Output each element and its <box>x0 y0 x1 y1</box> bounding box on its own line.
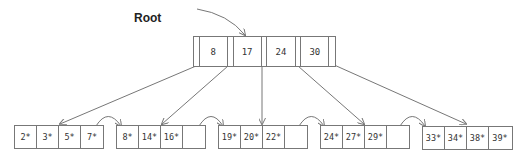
leaf-entry <box>387 126 409 148</box>
root-key: 24 <box>267 37 295 66</box>
leaf-entry: 29* <box>365 126 387 148</box>
leaf-entry <box>183 126 205 148</box>
root-key: 30 <box>301 37 329 66</box>
root-key: 8 <box>200 37 228 66</box>
child-pointer-0 <box>60 66 196 124</box>
leaf-entry: 19* <box>219 126 241 148</box>
leaf-node-3: 19* 20* 22* <box>218 125 308 149</box>
leaf-entry <box>285 126 307 148</box>
child-pointer-4 <box>332 64 466 124</box>
leaf-entry: 20* <box>241 126 263 148</box>
leaf-entry: 16* <box>161 126 183 148</box>
child-pointer-slot <box>329 37 335 66</box>
leaf-entry: 38* <box>467 127 489 149</box>
leaf-entry: 8* <box>117 126 139 148</box>
leaf-entry: 33* <box>423 127 445 149</box>
leaf-node-4: 24* 27* 29* <box>320 125 410 149</box>
root-node: 8 17 24 30 <box>193 36 336 67</box>
leaf-entry: 34* <box>445 127 467 149</box>
leaf-entry: 22* <box>263 126 285 148</box>
leaf-entry: 24* <box>321 126 343 148</box>
root-pointer-arrow <box>197 9 245 35</box>
leaf-entry: 5* <box>59 126 81 148</box>
leaf-entry: 7* <box>81 126 103 148</box>
child-pointer-3 <box>298 66 364 124</box>
child-pointer-1 <box>162 66 228 124</box>
leaf-node-2: 8* 14* 16* <box>116 125 206 149</box>
leaf-entry: 27* <box>343 126 365 148</box>
leaf-entry: 2* <box>15 126 37 148</box>
root-label: Root <box>134 11 161 25</box>
leaf-entry: 39* <box>489 127 511 149</box>
leaf-node-5: 33* 34* 38* 39* <box>422 126 513 150</box>
leaf-entry: 3* <box>37 126 59 148</box>
leaf-node-1: 2* 3* 5* 7* <box>14 125 104 149</box>
leaf-entry: 14* <box>139 126 161 148</box>
root-key: 17 <box>234 37 262 66</box>
